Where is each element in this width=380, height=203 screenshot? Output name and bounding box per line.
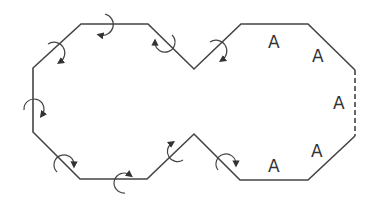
rotation-arrow-icon — [210, 40, 227, 60]
edge-label-a: A — [311, 141, 323, 161]
rotation-arrow-icon — [114, 173, 130, 193]
rotation-arrow-icon — [155, 35, 175, 52]
rotation-arrow-icon — [216, 154, 236, 170]
outline-solid — [33, 24, 355, 180]
edge-label-a: A — [333, 93, 345, 113]
rotation-arrows — [24, 14, 236, 193]
edge-label-a: A — [268, 156, 280, 176]
edge-label-a: A — [268, 32, 280, 52]
edge-label-a: A — [312, 46, 324, 66]
diagram-canvas: A A A A A — [0, 0, 380, 203]
rotation-arrow-icon — [24, 99, 44, 115]
